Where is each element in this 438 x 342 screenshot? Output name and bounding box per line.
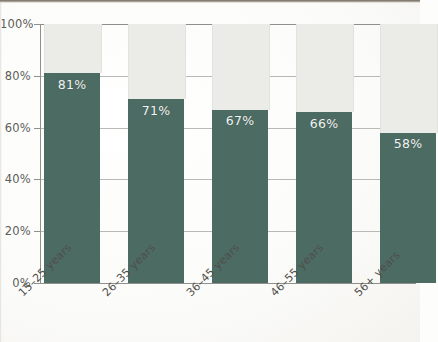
scan-top-edge [0,0,420,3]
y-tick-20 [34,231,40,232]
y-axis-label-100: 100% [0,17,31,31]
bar-remainder-4 [380,24,438,133]
bar-remainder-0 [44,24,102,73]
bar-value-label-3: 66% [296,116,352,131]
y-tick-80 [34,76,40,77]
y-axis-label-40: 40% [0,172,31,186]
y-axis-line [40,24,41,283]
bar-value-label-4: 58% [380,136,436,151]
bar-group-0[interactable]: 81% [44,24,100,283]
bar-group-4[interactable]: 58% [380,24,436,283]
bar-value-label-1: 71% [128,103,184,118]
bar-value-label-0: 81% [44,77,100,92]
y-axis-label-20: 20% [0,224,31,238]
y-tick-60 [34,128,40,129]
y-tick-100 [34,24,40,25]
bar-value-label-2: 67% [212,113,268,128]
y-axis-label-80: 80% [0,69,31,83]
y-tick-40 [34,179,40,180]
bar-remainder-3 [296,24,354,112]
y-axis-label-60: 60% [0,121,31,135]
bar-group-2[interactable]: 67% [212,24,268,283]
scan-left-edge [0,0,2,342]
bar-remainder-1 [128,24,186,99]
bar-remainder-2 [212,24,270,110]
bar-group-3[interactable]: 66% [296,24,352,283]
bar-group-1[interactable]: 71% [128,24,184,283]
